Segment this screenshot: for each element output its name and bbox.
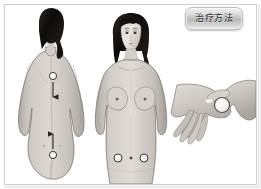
illustration-panel: 治疗方法 — [0, 0, 261, 189]
acupoint-left-abdomen — [114, 154, 122, 162]
right-nipple — [144, 98, 147, 101]
right-eye — [133, 32, 136, 34]
acupoint-right-abdomen — [140, 154, 148, 162]
navel-dot — [130, 157, 133, 160]
acupoint-lower-back — [49, 151, 56, 158]
badge-label: 治疗方法 — [195, 14, 233, 23]
frame-right-edge — [258, 4, 261, 189]
acupoint-hand — [215, 98, 230, 113]
acupoint-upper-back — [49, 72, 56, 79]
frame-bottom-edge — [4, 186, 261, 189]
illustration-canvas — [5, 5, 256, 184]
treatment-method-badge[interactable]: 治疗方法 — [185, 7, 243, 30]
left-nipple — [116, 98, 119, 101]
left-eye — [125, 32, 128, 34]
anatomy-illustration — [5, 5, 256, 184]
